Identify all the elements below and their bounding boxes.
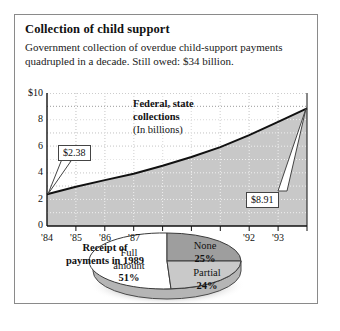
pie-label-none: None 25% xyxy=(177,240,233,265)
subtitle-text: Government collection of overdue child-s… xyxy=(25,41,313,68)
infographic-panel: Collection of child support Government c… xyxy=(14,14,318,304)
pie-value-partial: 24% xyxy=(197,280,218,291)
pie-caption: Receipt of payments in 1989 xyxy=(49,241,161,267)
pie-caption-line2: payments in 1989 xyxy=(49,254,161,267)
chart-area: $10 8 6 4 2 0 '84 '85 '86 '87 '92 '93 Fe… xyxy=(15,75,317,303)
pie-label-partial: Partial 24% xyxy=(177,267,237,292)
pie-label-none-line1: None xyxy=(177,240,233,253)
pie-value-none: 25% xyxy=(195,253,216,264)
pie-label-partial-line1: Partial xyxy=(177,267,237,280)
pie-value-full: 51% xyxy=(119,272,140,283)
pie-labels: Full amount 51% None 25% Partial 24% xyxy=(15,75,317,303)
page-title: Collection of child support xyxy=(25,22,170,37)
pie-caption-line1: Receipt of xyxy=(49,241,161,254)
